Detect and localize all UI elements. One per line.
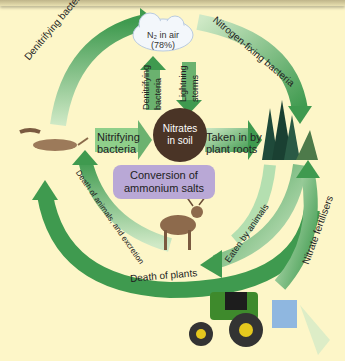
lightning-line1: Lightning xyxy=(177,65,189,102)
dead-deer-icon xyxy=(20,130,88,151)
conversion-line2: ammonium salts xyxy=(124,182,204,195)
label-nitrifying: Nitrifying bacteria xyxy=(97,131,140,155)
label-denitrifying-inner: Denitrifying bacteria xyxy=(140,65,164,110)
label-taken-in: Taken in by plant roots xyxy=(206,131,262,155)
taken-in-line2: plant roots xyxy=(206,143,262,155)
taken-in-line1: Taken in by xyxy=(206,131,262,143)
arrow-denitrifying-outer xyxy=(58,22,145,125)
label-lightning: Lightning storms xyxy=(177,65,201,102)
stag-icon xyxy=(160,196,206,250)
air-node: N₂ in air (78%) xyxy=(138,30,188,50)
soil-line2: in soil xyxy=(163,135,197,147)
soil-line1: Nitrates xyxy=(163,123,197,135)
air-label: N₂ in air xyxy=(138,30,188,40)
conversion-line1: Conversion of xyxy=(124,169,204,182)
denitrifying-inner-line1: Denitrifying xyxy=(140,65,152,110)
lightning-line2: storms xyxy=(189,65,201,102)
nitrifying-line2: bacteria xyxy=(97,143,140,155)
air-percent: (78%) xyxy=(138,40,188,50)
conversion-node: Conversion of ammonium salts xyxy=(113,165,215,199)
nitrates-in-soil-node: Nitrates in soil xyxy=(153,108,207,162)
tractor-icon xyxy=(189,292,330,355)
nitrifying-line1: Nitrifying xyxy=(97,131,140,143)
denitrifying-inner-line2: bacteria xyxy=(152,65,164,110)
